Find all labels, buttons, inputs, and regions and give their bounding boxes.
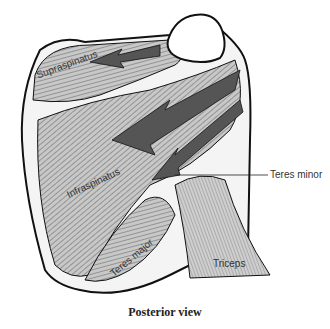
label-teres-minor: Teres minor (270, 169, 322, 180)
figure-caption: Posterior view (0, 305, 330, 320)
label-triceps: Triceps (213, 258, 245, 269)
humerus-head (168, 15, 225, 63)
shoulder-illustration (0, 0, 330, 329)
